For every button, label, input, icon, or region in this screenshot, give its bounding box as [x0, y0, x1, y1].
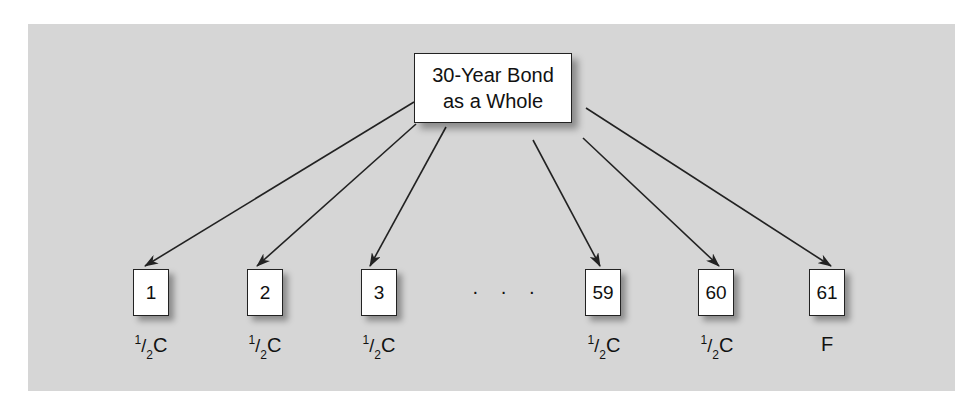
root-line-1: 30-Year Bond	[432, 62, 554, 88]
arrow-to-1	[145, 102, 414, 266]
cash-flow-label-3: 1/2C	[349, 333, 409, 362]
leaf-label: 2	[260, 282, 271, 304]
arrow-to-2	[257, 124, 416, 266]
cash-flow-label-61: F	[797, 333, 857, 356]
cash-flow-box-3: 3	[361, 269, 397, 316]
cash-flow-box-2: 2	[247, 269, 283, 316]
bond-as-whole-box: 30-Year Bond as a Whole	[414, 53, 572, 123]
leaf-label: 1	[146, 282, 157, 304]
cash-flow-box-1: 1	[133, 269, 169, 316]
root-line-2: as a Whole	[443, 88, 543, 114]
cash-flow-box-60: 60	[698, 269, 734, 316]
cash-flow-label-1: 1/2C	[121, 333, 181, 362]
cash-flow-box-59: 59	[585, 269, 621, 316]
arrow-to-61	[586, 108, 831, 266]
arrow-to-59	[533, 140, 600, 266]
ellipsis: · · ·	[472, 280, 543, 303]
leaf-label: 59	[592, 282, 613, 304]
cash-flow-label-59: 1/2C	[574, 333, 634, 362]
arrow-to-60	[583, 138, 719, 266]
cash-flow-label-60: 1/2C	[687, 333, 747, 362]
leaf-label: 61	[816, 282, 837, 304]
cash-flow-label-2: 1/2C	[235, 333, 295, 362]
leaf-label: 60	[705, 282, 726, 304]
leaf-label: 3	[374, 282, 385, 304]
arrow-to-3	[370, 127, 446, 266]
cash-flow-box-61: 61	[809, 269, 845, 316]
